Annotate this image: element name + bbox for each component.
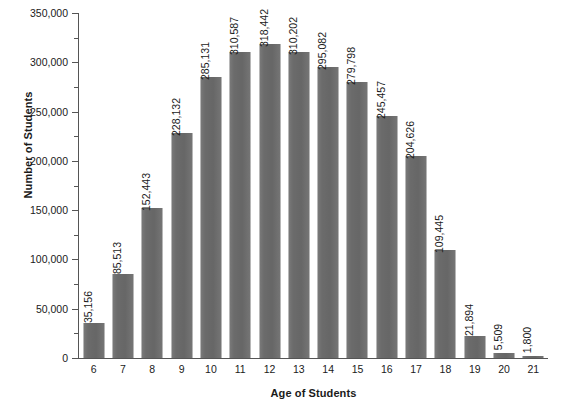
bar <box>318 67 339 358</box>
x-axis-tick-label: 21 <box>528 363 540 375</box>
x-axis-tick-label: 9 <box>179 363 185 375</box>
bar-value-label: 318,442 <box>258 9 270 47</box>
bar-group: 295,082 <box>314 13 343 358</box>
bar-value-label: 1,800 <box>521 327 533 353</box>
y-axis-tick-label: 350,000 <box>30 7 68 19</box>
bar-value-label: 21,894 <box>463 304 475 336</box>
y-axis-tick-label: 100,000 <box>30 253 68 265</box>
y-axis-ticks: 050,000100,000150,000200,000250,000300,0… <box>0 0 78 406</box>
bar-value-label: 228,132 <box>170 98 182 136</box>
x-axis-tick-label: 11 <box>235 363 246 375</box>
y-axis-tick-label: 0 <box>62 352 68 364</box>
bar <box>112 274 133 358</box>
y-axis-tick-label: 50,000 <box>36 303 68 315</box>
bar-group: 1,800 <box>519 13 548 358</box>
bar-group: 285,131 <box>196 13 225 358</box>
bar-group: 204,626 <box>401 13 430 358</box>
bar-value-label: 310,587 <box>228 17 240 55</box>
bar-value-label: 285,131 <box>199 42 211 80</box>
bar-group: 5,509 <box>489 13 518 358</box>
bar-value-label: 5,509 <box>492 323 504 349</box>
bar-value-label: 109,445 <box>433 215 445 253</box>
bar-group: 109,445 <box>431 13 460 358</box>
bar-value-label: 204,626 <box>404 121 416 159</box>
bar <box>523 356 544 358</box>
x-axis-tick-label: 20 <box>498 363 510 375</box>
x-axis-tick-label: 14 <box>322 363 334 375</box>
bar-group: 21,894 <box>460 13 489 358</box>
bar-group: 85,513 <box>108 13 137 358</box>
bar <box>259 44 280 358</box>
bar-group: 310,202 <box>284 13 313 358</box>
x-axis-tick-label: 18 <box>440 363 452 375</box>
x-axis-tick-label: 13 <box>293 363 305 375</box>
bar-value-label: 245,457 <box>375 81 387 119</box>
y-axis-tick-label: 250,000 <box>30 106 68 118</box>
x-axis-tick-label: 19 <box>469 363 481 375</box>
bar-group: 245,457 <box>372 13 401 358</box>
y-axis-tick-label: 300,000 <box>30 56 68 68</box>
x-axis-tick-label: 10 <box>205 363 217 375</box>
x-axis-tick-label: 7 <box>120 363 126 375</box>
bar-chart: Number of Students 050,000100,000150,000… <box>0 0 561 406</box>
x-axis-tick-label: 16 <box>381 363 393 375</box>
y-axis-tick-label: 200,000 <box>30 155 68 167</box>
bar <box>83 323 104 358</box>
x-axis-tick-label: 6 <box>91 363 97 375</box>
bar-group: 228,132 <box>167 13 196 358</box>
x-axis-title: Age of Students <box>79 387 548 399</box>
bar <box>435 250 456 358</box>
bar-value-label: 85,513 <box>111 242 123 274</box>
bar <box>230 52 251 358</box>
bar <box>288 52 309 358</box>
x-axis-tick-label: 15 <box>352 363 364 375</box>
bar <box>376 116 397 358</box>
plot-area: 35,15685,513152,443228,132285,131310,587… <box>79 13 548 358</box>
x-axis-tick-label: 17 <box>410 363 422 375</box>
x-axis-ticks: 6789101112131415161718192021 <box>79 363 548 383</box>
bar <box>494 353 515 358</box>
y-axis-tick-label: 150,000 <box>30 204 68 216</box>
bar-group: 279,798 <box>343 13 372 358</box>
bar-group: 318,442 <box>255 13 284 358</box>
bar-value-label: 295,082 <box>316 32 328 70</box>
bar <box>464 336 485 358</box>
bar-value-label: 279,798 <box>345 47 357 85</box>
bar-group: 152,443 <box>138 13 167 358</box>
bar-group: 310,587 <box>226 13 255 358</box>
bar-value-label: 35,156 <box>82 291 94 323</box>
x-axis-tick-label: 12 <box>264 363 276 375</box>
bar <box>171 133 192 358</box>
bar <box>406 156 427 358</box>
bar-value-label: 152,443 <box>140 173 152 211</box>
bar-value-label: 310,202 <box>287 17 299 55</box>
x-axis-line <box>78 358 548 359</box>
bar <box>142 208 163 358</box>
x-axis-tick-label: 8 <box>149 363 155 375</box>
bar-group: 35,156 <box>79 13 108 358</box>
bar <box>200 77 221 358</box>
bar <box>347 82 368 358</box>
